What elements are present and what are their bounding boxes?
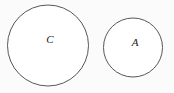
set-label-a: A <box>131 36 139 48</box>
set-diagram-svg: C A <box>0 0 174 93</box>
set-circle-c <box>8 5 89 86</box>
set-diagram-canvas: C A <box>0 0 174 93</box>
set-label-c: C <box>46 33 54 45</box>
